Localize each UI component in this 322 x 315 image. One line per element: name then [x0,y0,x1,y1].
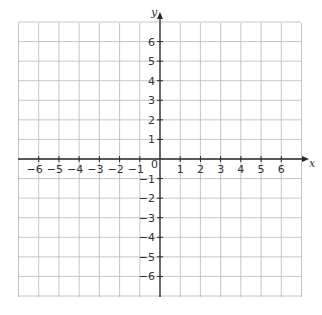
x-tick-label: 3 [217,163,224,176]
x-tick-label: −4 [67,163,83,176]
y-tick-label: −2 [139,192,155,205]
origin-label: 0 [151,158,158,171]
y-tick-label: 3 [148,94,155,107]
axes [18,12,309,297]
x-axis-arrow-icon [302,156,309,162]
y-axis-label: y [150,6,158,19]
coordinate-plane: −6−5−4−3−2−1123456654321−1−2−3−4−5−6 x y… [0,0,322,315]
x-tick-label: 5 [258,163,265,176]
y-tick-label: −5 [139,251,155,264]
y-tick-label: 4 [148,75,155,88]
x-tick-label: 2 [197,163,204,176]
x-tick-label: −3 [87,163,103,176]
y-tick-label: 6 [148,36,155,49]
y-tick-label: −1 [139,173,155,186]
y-tick-label: 5 [148,55,155,68]
y-axis-arrow-icon [157,12,163,19]
y-tick-label: 1 [148,133,155,146]
x-tick-label: −2 [107,163,123,176]
x-tick-label: −5 [47,163,63,176]
x-tick-label: 4 [237,163,244,176]
y-tick-label: −4 [139,231,155,244]
y-tick-label: 2 [148,114,155,127]
x-tick-label: 6 [278,163,285,176]
y-tick-label: −3 [139,212,155,225]
y-tick-label: −6 [139,270,155,283]
x-tick-label: 1 [177,163,184,176]
x-tick-label: −6 [27,163,43,176]
x-axis-label: x [309,157,316,170]
